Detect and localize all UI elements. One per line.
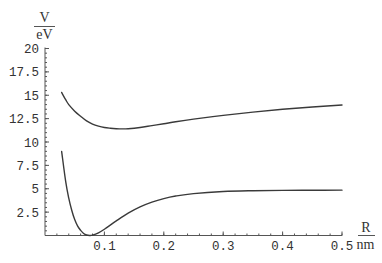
x-tick-label: 0.4 bbox=[271, 240, 294, 254]
x-axis-title-numerator: R bbox=[361, 220, 371, 235]
y-tick-label: 7.5 bbox=[16, 160, 39, 174]
tick-labels: 0.10.20.30.40.52.557.51012.51517.520 bbox=[9, 43, 353, 254]
y-tick-label: 17.5 bbox=[9, 66, 39, 80]
y-axis-title: V eV bbox=[34, 10, 55, 42]
y-tick-label: 5 bbox=[31, 183, 39, 197]
x-tick-label: 0.2 bbox=[153, 240, 176, 254]
x-tick-label: 0.5 bbox=[331, 240, 354, 254]
y-axis-title-numerator: V bbox=[39, 10, 49, 25]
x-tick-label: 0.1 bbox=[93, 240, 116, 254]
y-tick-label: 20 bbox=[24, 43, 39, 57]
y-tick-label: 12.5 bbox=[9, 113, 39, 127]
x-axis-title: R nm bbox=[357, 220, 375, 252]
x-axis-title-denominator: nm bbox=[357, 237, 375, 252]
y-tick-label: 15 bbox=[24, 90, 39, 104]
axes bbox=[45, 48, 342, 236]
y-axis-title-denominator: eV bbox=[36, 27, 52, 42]
plot-curves bbox=[62, 92, 342, 235]
y-tick-label: 10 bbox=[24, 137, 39, 151]
potential-energy-chart: V eV R nm 0.10.20.30.40.52.557.51012.515… bbox=[0, 0, 382, 263]
upper-potential-curve bbox=[62, 92, 342, 128]
lower-potential-curve bbox=[62, 151, 342, 235]
x-tick-label: 0.3 bbox=[212, 240, 235, 254]
ticks bbox=[45, 49, 342, 236]
y-tick-label: 2.5 bbox=[16, 207, 39, 221]
